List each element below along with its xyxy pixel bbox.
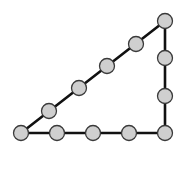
triangle-diagram: [0, 0, 187, 183]
node-hypotenuse-1: [42, 104, 57, 119]
node-base-3: [122, 126, 137, 141]
node-vertical-2: [158, 51, 173, 66]
node-hypotenuse-4: [129, 37, 144, 52]
node-base-2: [86, 126, 101, 141]
edges-group: [21, 21, 165, 133]
node-bottom-left-corner: [14, 126, 29, 141]
node-bottom-right-corner: [158, 126, 173, 141]
node-base-1: [50, 126, 65, 141]
hypotenuse-edge: [21, 21, 165, 133]
node-hypotenuse-3: [100, 59, 115, 74]
node-vertical-1: [158, 89, 173, 104]
triangle-diagram-canvas: [0, 0, 187, 183]
node-top-right-corner: [158, 14, 173, 29]
node-hypotenuse-2: [72, 81, 87, 96]
